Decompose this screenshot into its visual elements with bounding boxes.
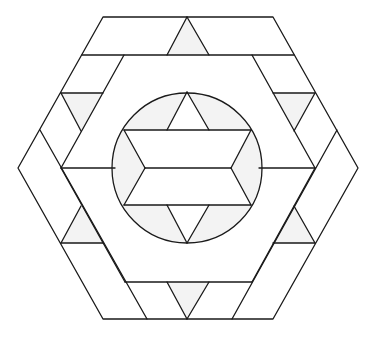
triangle-top [167, 17, 209, 55]
triangle-upper-left [61, 93, 103, 131]
triangle-bottom [167, 282, 209, 319]
triangle-lower-left [61, 206, 103, 243]
hexagon-band-diagram [0, 0, 365, 340]
lower-right-band-inner [252, 168, 315, 282]
triangle-lower-right [273, 206, 315, 243]
triangle-upper-right [273, 93, 315, 131]
upper-right-band-inner [252, 55, 315, 168]
